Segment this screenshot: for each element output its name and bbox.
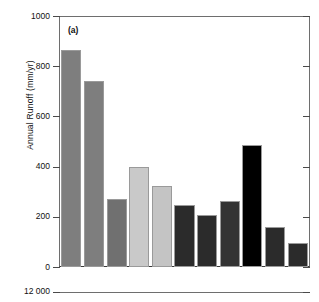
y-axis-tick-label: 400: [8, 162, 50, 171]
y-axis-tick-right: [303, 267, 310, 268]
y-axis-tick: [53, 267, 60, 268]
bar: [61, 50, 81, 267]
y-axis-tick: [53, 16, 60, 17]
y-axis-tick-label: 1000: [8, 12, 50, 21]
bar: [288, 243, 308, 267]
y-axis-tick-label: 800: [8, 62, 50, 71]
y-axis-tick: [53, 116, 60, 117]
bar: [197, 215, 217, 267]
bar: [107, 199, 127, 267]
bar: [220, 201, 240, 267]
lower-panel-tick-label: 12 000: [4, 287, 50, 296]
bar: [152, 186, 172, 267]
bar-series: [60, 17, 309, 267]
y-axis-tick-label: 200: [8, 212, 50, 221]
y-axis-tick: [53, 217, 60, 218]
y-axis-tick: [53, 167, 60, 168]
bar: [174, 205, 194, 267]
figure-panel-a: Annual Runoff (mm/yr) 02004006008001000 …: [0, 0, 319, 302]
lower-panel-tick-left: [53, 292, 60, 293]
lower-panel-axis: [59, 292, 310, 293]
bar: [242, 145, 262, 267]
y-axis-tick: [53, 66, 60, 67]
lower-panel-tick-right: [303, 292, 310, 293]
y-axis-tick-label: 0: [8, 263, 50, 272]
y-axis-tick-label: 600: [8, 112, 50, 121]
bar: [129, 167, 149, 267]
bar: [265, 227, 285, 267]
bar: [84, 81, 104, 267]
